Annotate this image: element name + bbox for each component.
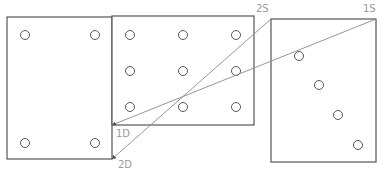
hole-icon <box>21 31 30 40</box>
label-2S: 2S <box>256 3 269 14</box>
hole-icon <box>126 67 135 76</box>
hole-icon <box>91 139 100 148</box>
assembly-diagram: 1S 2S 1D 2D <box>0 0 386 171</box>
hole-icon <box>232 103 241 112</box>
middle-panel <box>112 16 254 125</box>
hole-icon <box>21 139 30 148</box>
hole-icon <box>179 67 188 76</box>
hole-icon <box>179 31 188 40</box>
hole-icon <box>354 141 363 150</box>
hole-icon <box>91 31 100 40</box>
label-1S: 1S <box>363 3 376 14</box>
hole-icon <box>334 111 343 120</box>
label-1D: 1D <box>116 128 130 139</box>
hole-icon <box>315 81 324 90</box>
left-panel <box>7 17 112 159</box>
hole-icon <box>126 103 135 112</box>
hole-icon <box>126 31 135 40</box>
hole-icon <box>232 31 241 40</box>
hole-icon <box>179 103 188 112</box>
hole-icon <box>295 52 304 61</box>
label-2D: 2D <box>118 159 132 170</box>
